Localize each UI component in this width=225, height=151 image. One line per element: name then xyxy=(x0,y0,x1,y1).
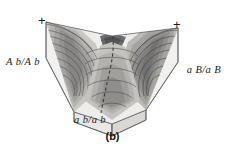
genotype-label-right: a B/a B xyxy=(187,64,221,75)
figure-caption: (b) xyxy=(0,130,225,142)
adaptive-landscape-figure: + + A b/A b a B/a B a b/a b (b) xyxy=(0,0,225,151)
left-peak-plus-marker: + xyxy=(38,14,46,27)
genotype-label-bottom: a b/a b xyxy=(74,114,106,125)
landscape-surface xyxy=(0,0,225,151)
right-peak-plus-marker: + xyxy=(173,18,181,31)
genotype-label-left: A b/A b xyxy=(6,56,40,67)
